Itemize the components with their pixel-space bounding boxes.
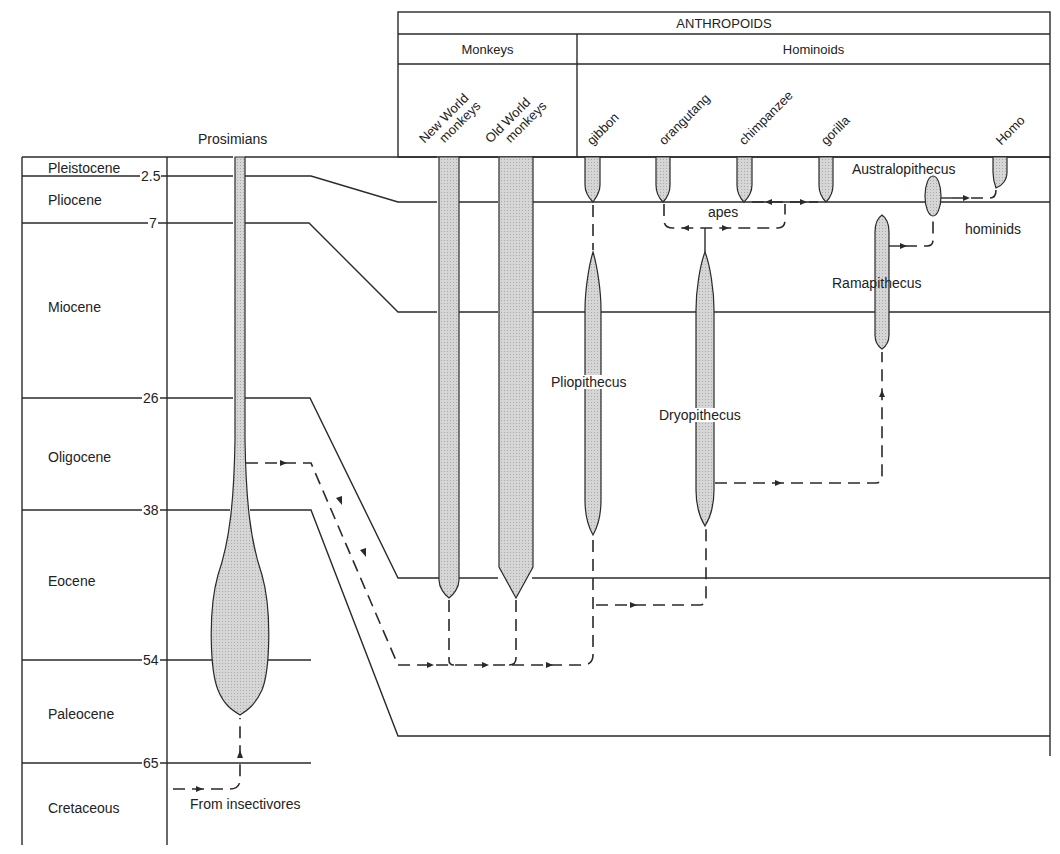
- pliopithecus-lineage: [585, 252, 601, 535]
- australopithecus-lineage: [925, 176, 941, 216]
- tick-54: 54: [142, 653, 160, 667]
- epoch-eocene: Eocene: [48, 574, 95, 588]
- gorilla-lineage: [819, 157, 833, 202]
- orangutang-lineage: [656, 157, 670, 202]
- primate-phylogeny-diagram: ANTHROPOIDS Monkeys Hominoids New World …: [0, 0, 1060, 854]
- tick-26: 26: [142, 391, 160, 405]
- diagram-canvas: [0, 0, 1060, 854]
- gibbon-lineage: [585, 157, 600, 202]
- tick-2-5: 2.5: [140, 169, 161, 183]
- epoch-oligocene: Oligocene: [48, 450, 111, 464]
- old-world-monkeys-lineage: [499, 157, 533, 598]
- new-world-monkeys-lineage: [439, 157, 459, 598]
- ramapithecus-label: Ramapithecus: [832, 276, 922, 290]
- epoch-miocene: Miocene: [48, 300, 101, 314]
- tick-38: 38: [142, 503, 160, 517]
- time-scale: [22, 157, 1050, 845]
- prosimians-label: Prosimians: [198, 132, 267, 146]
- chimpanzee-lineage: [737, 157, 752, 202]
- epoch-paleocene: Paleocene: [48, 707, 114, 721]
- tick-7: 7: [148, 216, 158, 230]
- anthropoids-header: ANTHROPOIDS: [398, 16, 1050, 31]
- from-insectivores-label: From insectivores: [190, 797, 300, 811]
- tick-65: 65: [142, 756, 160, 770]
- epoch-pleistocene: Pleistocene: [48, 161, 120, 175]
- pliopithecus-label: Pliopithecus: [551, 375, 627, 389]
- australopithecus-label: Australopithecus: [852, 162, 956, 176]
- hominids-label: hominids: [965, 222, 1021, 236]
- monkeys-header: Monkeys: [398, 42, 577, 57]
- dryopithecus-label: Dryopithecus: [659, 408, 741, 422]
- epoch-cretaceous: Cretaceous: [48, 801, 120, 815]
- hominoids-header: Hominoids: [577, 42, 1050, 57]
- homo-lineage: [993, 157, 1007, 188]
- epoch-pliocene: Pliocene: [48, 193, 102, 207]
- apes-label: apes: [708, 205, 738, 219]
- prosimians-lineage: [211, 157, 269, 715]
- dryopithecus-lineage: [696, 252, 714, 526]
